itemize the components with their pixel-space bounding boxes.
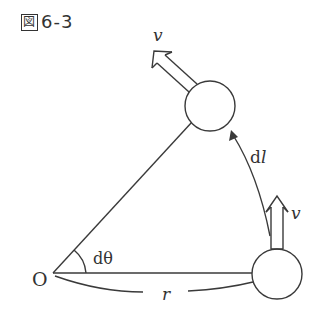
velocity-arrow-bottom	[266, 196, 288, 249]
velocity-label-bottom: v	[291, 203, 301, 223]
velocity-arrow-top	[152, 51, 197, 92]
angle-label: dθ	[93, 249, 113, 268]
radius-brace-right	[188, 282, 253, 291]
rotation-diagram: O dθ r dl v v	[0, 0, 327, 322]
radius-label: r	[162, 284, 171, 304]
arc-arrowhead	[229, 130, 238, 141]
particle-bottom	[252, 249, 302, 299]
angle-arc	[74, 250, 86, 273]
radius-brace	[55, 276, 143, 292]
arc-label-d: dl	[250, 147, 266, 167]
particle-top	[185, 81, 235, 131]
origin-label: O	[32, 268, 48, 290]
velocity-label-top: v	[153, 25, 163, 45]
